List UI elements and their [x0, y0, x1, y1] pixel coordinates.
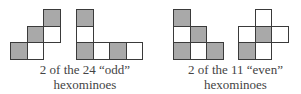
hexomino-cell-white: [43, 26, 61, 44]
hexomino-cell-grey: [76, 42, 94, 60]
hexomino-cell-white: [76, 26, 94, 44]
hexomino-cell-grey: [43, 9, 61, 27]
hexomino-cell-white: [173, 26, 191, 44]
hexomino-cell-grey: [255, 26, 273, 44]
hexomino-cell-grey: [238, 42, 256, 60]
hexomino-figure: [0, 0, 301, 62]
hexomino-cell-grey: [173, 42, 191, 60]
even-caption: 2 of the 11 “even” hexominoes: [170, 62, 301, 92]
hexomino-cell-white: [255, 42, 273, 60]
hexomino-cell-grey: [173, 9, 191, 27]
hexomino-cell-white: [93, 42, 111, 60]
hexomino-cell-grey: [109, 42, 127, 60]
hexomino-cell-white: [255, 9, 273, 27]
hexomino-cell-grey: [206, 42, 224, 60]
hexomino-cell-grey: [10, 42, 28, 60]
hexomino-cell-white: [190, 42, 208, 60]
even-caption-line1: 2 of the 11 “even”: [170, 62, 301, 77]
odd-caption-line1: 2 of the 24 “odd”: [20, 62, 150, 77]
hexomino-cell-white: [271, 26, 289, 44]
hexomino-cell-grey: [190, 26, 208, 44]
even-caption-line2: hexominoes: [170, 77, 301, 92]
hexomino-cell-grey: [27, 26, 45, 44]
hexomino-cell-white: [27, 42, 45, 60]
hexomino-cell-white: [126, 42, 144, 60]
odd-caption: 2 of the 24 “odd” hexominoes: [20, 62, 150, 92]
hexomino-cell-white: [238, 26, 256, 44]
hexomino-cell-grey: [76, 9, 94, 27]
odd-caption-line2: hexominoes: [20, 77, 150, 92]
